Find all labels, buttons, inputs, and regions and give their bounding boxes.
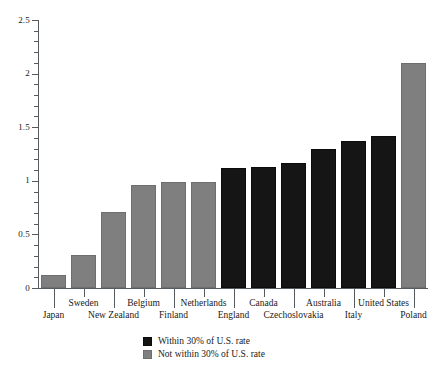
bar-czechoslovakia [281,163,306,288]
y-axis-tick-label: 1.5 [2,123,30,132]
x-axis-label-italy: Italy [345,310,362,321]
x-axis-label-poland: Poland [400,310,426,321]
x-axis-label-finland: Finland [159,310,188,321]
x-axis-label-australia: Australia [306,298,341,309]
chart-legend: Within 30% of U.S. rateNot within 30% of… [0,336,433,362]
bar-series-container [38,20,428,288]
legend-label: Within 30% of U.S. rate [158,336,250,346]
x-axis-label-japan: Japan [43,310,65,321]
bar-united-states [371,136,396,288]
x-axis-label-sweden: Sweden [68,298,98,309]
legend-swatch-icon [143,350,152,359]
bar-new-zealand [101,212,126,288]
y-axis-tick-label: 2.5 [2,16,30,25]
bar-chart: 00.511.522.5 JapanSwedenNew ZealandBelgi… [0,0,433,375]
legend-swatch-icon [143,337,152,346]
x-axis-labels: JapanSwedenNew ZealandBelgiumFinlandNeth… [0,289,433,334]
bar-poland [401,63,426,288]
bar-australia [311,149,336,288]
bar-italy [341,141,366,288]
bar-belgium [131,185,156,288]
x-axis-label-czechoslovakia: Czechoslovakia [263,310,323,321]
x-axis-label-belgium: Belgium [127,298,160,309]
x-axis-label-united-states: United States [358,298,409,309]
x-axis-label-england: England [218,310,250,321]
legend-label: Not within 30% of U.S. rate [158,349,265,359]
x-axis-label-canada: Canada [249,298,278,309]
y-axis-tick-label: 2 [2,69,30,78]
y-axis-tick-label: 0.5 [2,230,30,239]
legend-item: Not within 30% of U.S. rate [0,349,433,359]
x-axis-label-new-zealand: New Zealand [88,310,139,321]
bar-canada [251,167,276,288]
bar-finland [161,182,186,288]
y-axis-tick-label: 1 [2,176,30,185]
x-axis-label-netherlands: Netherlands [181,298,227,309]
legend-item: Within 30% of U.S. rate [0,336,433,346]
bar-netherlands [191,182,216,288]
bar-japan [41,275,66,288]
bar-england [221,168,246,288]
bar-sweden [71,255,96,288]
